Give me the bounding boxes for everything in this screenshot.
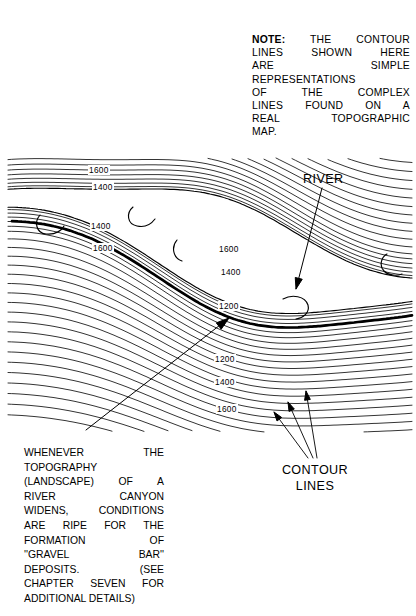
elevation-label: 1600 [218, 244, 240, 254]
caption-line-8: ''GRAVEL BAR'' [24, 548, 164, 563]
elevation-label: 1200 [214, 354, 236, 364]
note-line-2: LINES SHOWN HERE [252, 46, 410, 59]
elevation-label: 1400 [92, 182, 114, 192]
contour-lines-label: CONTOUR LINES [265, 463, 365, 494]
note-line-1: NOTE: THE CONTOUR [252, 33, 410, 46]
caption-text-block: WHENEVER THE TOPOGRAPHY (LANDSCAPE) OF A… [24, 446, 164, 607]
caption-line-9: DEPOSITS. (SEE [24, 563, 164, 578]
note-line-6: LINES FOUND ON A [252, 99, 410, 112]
caption-line-5: WIDENS, CONDITIONS [24, 504, 164, 519]
caption-line-6: ARE RIPE FOR THE [24, 519, 164, 534]
note-lead: NOTE: [252, 34, 285, 45]
figure-page: 1600140014001600160014001200120014001600… [0, 0, 416, 616]
note-line-7: REAL TOPOGRAPHIC [252, 112, 410, 125]
note-text-block: NOTE: THE CONTOUR LINES SHOWN HERE ARE S… [252, 33, 410, 139]
caption-line-4: RIVER CANYON [24, 490, 164, 505]
contour-lines-label-line1: CONTOUR [265, 463, 365, 479]
elevation-label: 1600 [88, 165, 110, 175]
note-line-3: ARE SIMPLE [252, 59, 410, 72]
caption-line-10: CHAPTER SEVEN FOR [24, 577, 164, 592]
caption-line-11: ADDITIONAL DETAILS) [24, 592, 164, 607]
elevation-label: 1400 [90, 221, 112, 231]
annotation-arrow-group [86, 188, 322, 458]
caption-line-1: WHENEVER THE [24, 446, 164, 461]
elevation-label: 1400 [214, 377, 236, 387]
note-line-1-text: THE CONTOUR [310, 34, 410, 45]
elevation-label: 1200 [218, 301, 240, 311]
note-line-4: REPRESENTATIONS [252, 73, 410, 86]
caption-line-3: (LANDSCAPE) OF A [24, 475, 164, 490]
note-line-5: OF THE COMPLEX [252, 86, 410, 99]
contour-lines-label-line2: LINES [265, 479, 365, 495]
caption-line-2: TOPOGRAPHY [24, 461, 164, 476]
note-line-8: MAP. [252, 125, 410, 138]
contour-line-group [8, 158, 412, 432]
contour-pointer-arrowhead-1 [274, 412, 282, 421]
river-label: RIVER [303, 172, 344, 186]
elevation-label: 1600 [216, 404, 238, 414]
elevation-label: 1400 [220, 267, 242, 277]
caption-line-7: FORMATION OF [24, 534, 164, 549]
river-arrowhead [295, 277, 302, 289]
elevation-label: 1600 [92, 243, 114, 253]
